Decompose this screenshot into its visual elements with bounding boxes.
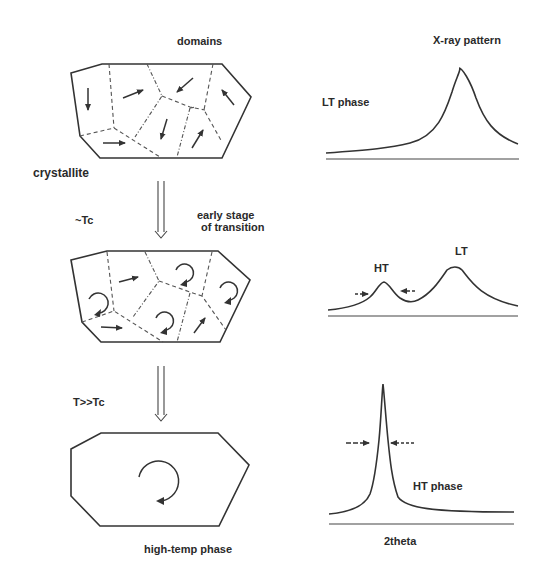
- t-much-greater-tc-label: T>>Tc: [73, 396, 105, 408]
- xray-pattern-title: X-ray pattern: [433, 34, 501, 46]
- early-stage-label-1: early stage: [197, 209, 254, 221]
- early-stage-label-2: of transition: [201, 221, 265, 233]
- crystallite-label: crystallite: [33, 167, 89, 179]
- rotation-icons-early: [89, 264, 237, 335]
- xray-pattern-ht: [329, 384, 514, 524]
- crystallite-early: [71, 251, 250, 342]
- domains-label: domains: [177, 35, 222, 47]
- crystallite-ht: [71, 433, 249, 526]
- phase-transition-diagram: domains X-ray pattern LT phase crystalli…: [0, 0, 559, 571]
- double-down-arrow-icon: [155, 366, 167, 421]
- ht-phase-label: HT phase: [413, 480, 463, 492]
- crystallite-lt: [71, 64, 251, 158]
- two-theta-axis-label: 2theta: [384, 535, 416, 547]
- near-tc-label: ~Tc: [75, 214, 93, 226]
- diagram-graphics: [0, 0, 559, 571]
- xray-pattern-lt: [326, 68, 519, 159]
- double-down-arrow-icon: [155, 181, 167, 238]
- polarization-arrows-early: [101, 277, 205, 333]
- xray-pattern-early: [328, 267, 518, 316]
- lt-phase-label: LT phase: [322, 96, 369, 108]
- ht-peak-label: HT: [374, 262, 389, 274]
- lt-peak-label: LT: [455, 245, 468, 257]
- polarization-arrows-lt: [88, 78, 234, 148]
- high-temp-phase-label: high-temp phase: [144, 543, 232, 555]
